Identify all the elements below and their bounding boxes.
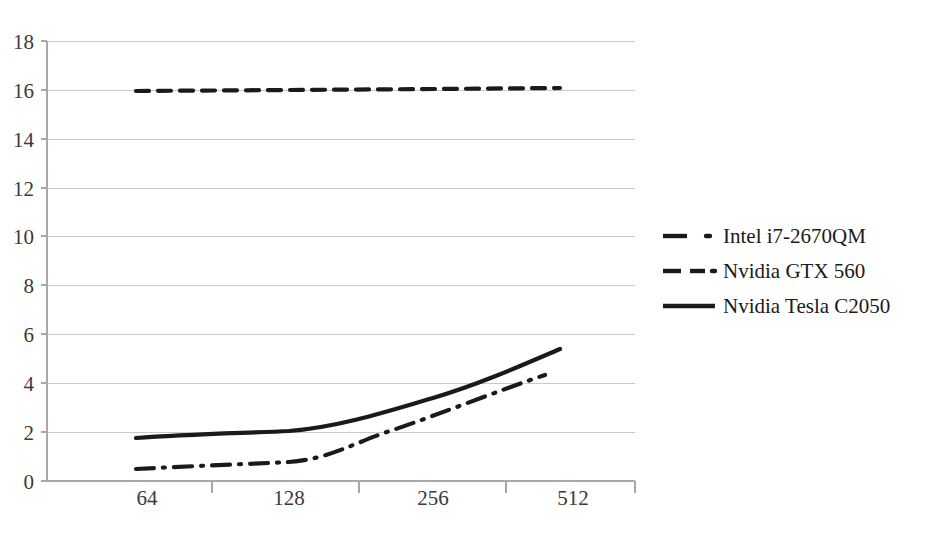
y-tick-label: 4: [24, 372, 35, 396]
legend-label-nvidia-gtx-560: Nvidia GTX 560: [723, 259, 865, 283]
legend-label-nvidia-tesla-c2050: Nvidia Tesla C2050: [723, 294, 890, 318]
chart-canvas: 18 16 14 12 10 8 6 4 2 0 64 128 256 512: [0, 0, 927, 536]
y-tick-label: 8: [24, 274, 35, 298]
legend-item-nvidia-gtx-560: Nvidia GTX 560: [663, 259, 865, 283]
y-tick-label: 18: [13, 30, 34, 54]
x-tick-label: 128: [273, 486, 305, 510]
x-axis: [47, 481, 635, 493]
y-tick-label: 6: [24, 323, 35, 347]
chart-legend: Intel i7-2670QM Nvidia GTX 560 Nvidia Te…: [663, 224, 890, 318]
y-tick-label: 12: [13, 177, 34, 201]
y-tick-label: 14: [13, 128, 35, 152]
legend-item-intel-i7-2670qm: Intel i7-2670QM: [663, 224, 866, 248]
legend-label-intel-i7-2670qm: Intel i7-2670QM: [723, 224, 866, 248]
y-tick-label: 2: [24, 421, 35, 445]
x-tick-label: 64: [137, 486, 159, 510]
x-tick-label: 512: [557, 486, 589, 510]
x-tick-label: 256: [417, 486, 449, 510]
chart-figure: 18 16 14 12 10 8 6 4 2 0 64 128 256 512: [0, 0, 927, 536]
y-tick-label: 10: [13, 225, 34, 249]
y-axis: [41, 41, 47, 481]
x-tick-labels: 64 128 256 512: [137, 486, 589, 510]
y-tick-label: 0: [24, 470, 35, 494]
y-tick-label: 16: [13, 79, 34, 103]
legend-item-nvidia-tesla-c2050: Nvidia Tesla C2050: [663, 294, 890, 318]
y-tick-labels: 18 16 14 12 10 8 6 4 2 0: [13, 30, 35, 494]
plot-area-background: [47, 41, 635, 481]
